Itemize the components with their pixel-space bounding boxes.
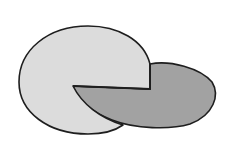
overlapping-shapes-diagram <box>0 0 231 148</box>
